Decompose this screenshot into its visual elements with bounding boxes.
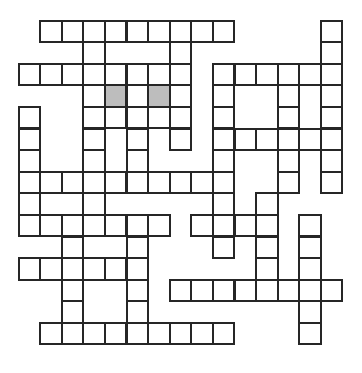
grid-cell[interactable] xyxy=(82,84,106,108)
grid-cell[interactable] xyxy=(190,279,214,303)
grid-cell[interactable] xyxy=(320,20,344,44)
grid-cell[interactable] xyxy=(126,300,150,324)
grid-cell[interactable] xyxy=(147,171,171,195)
grid-cell[interactable] xyxy=(82,214,106,238)
grid-cell[interactable] xyxy=(212,192,236,216)
grid-cell[interactable] xyxy=(18,257,42,281)
grid-cell[interactable] xyxy=(82,20,106,44)
grid-cell[interactable] xyxy=(18,63,42,87)
grid-cell[interactable] xyxy=(320,84,344,108)
grid-cell[interactable] xyxy=(147,20,171,44)
grid-cell[interactable] xyxy=(82,128,106,152)
grid-cell[interactable] xyxy=(126,106,150,130)
grid-cell[interactable] xyxy=(126,20,150,44)
grid-cell[interactable] xyxy=(255,257,279,281)
grid-cell[interactable] xyxy=(255,192,279,216)
shaded-cell[interactable] xyxy=(147,84,171,108)
grid-cell[interactable] xyxy=(82,149,106,173)
grid-cell[interactable] xyxy=(169,171,193,195)
grid-cell[interactable] xyxy=(169,84,193,108)
grid-cell[interactable] xyxy=(277,128,301,152)
grid-cell[interactable] xyxy=(169,41,193,65)
grid-cell[interactable] xyxy=(277,106,301,130)
grid-cell[interactable] xyxy=(126,322,150,346)
grid-cell[interactable] xyxy=(190,214,214,238)
grid-cell[interactable] xyxy=(61,300,85,324)
grid-cell[interactable] xyxy=(61,236,85,260)
grid-cell[interactable] xyxy=(61,257,85,281)
grid-cell[interactable] xyxy=(169,128,193,152)
grid-cell[interactable] xyxy=(126,214,150,238)
grid-cell[interactable] xyxy=(147,106,171,130)
grid-cell[interactable] xyxy=(169,106,193,130)
grid-cell[interactable] xyxy=(39,214,63,238)
grid-cell[interactable] xyxy=(39,171,63,195)
grid-cell[interactable] xyxy=(190,171,214,195)
grid-cell[interactable] xyxy=(18,128,42,152)
grid-cell[interactable] xyxy=(212,84,236,108)
grid-cell[interactable] xyxy=(320,128,344,152)
grid-cell[interactable] xyxy=(126,171,150,195)
grid-cell[interactable] xyxy=(82,106,106,130)
grid-cell[interactable] xyxy=(104,257,128,281)
grid-cell[interactable] xyxy=(126,236,150,260)
grid-cell[interactable] xyxy=(18,149,42,173)
grid-cell[interactable] xyxy=(61,20,85,44)
grid-cell[interactable] xyxy=(104,106,128,130)
grid-cell[interactable] xyxy=(126,128,150,152)
grid-cell[interactable] xyxy=(104,214,128,238)
grid-cell[interactable] xyxy=(169,63,193,87)
grid-cell[interactable] xyxy=(190,322,214,346)
grid-cell[interactable] xyxy=(169,20,193,44)
grid-cell[interactable] xyxy=(147,63,171,87)
grid-cell[interactable] xyxy=(212,20,236,44)
grid-cell[interactable] xyxy=(104,63,128,87)
grid-cell[interactable] xyxy=(234,128,258,152)
grid-cell[interactable] xyxy=(18,192,42,216)
grid-cell[interactable] xyxy=(61,171,85,195)
grid-cell[interactable] xyxy=(18,214,42,238)
grid-cell[interactable] xyxy=(298,300,322,324)
grid-cell[interactable] xyxy=(61,279,85,303)
grid-cell[interactable] xyxy=(298,128,322,152)
grid-cell[interactable] xyxy=(126,84,150,108)
grid-cell[interactable] xyxy=(104,20,128,44)
grid-cell[interactable] xyxy=(298,63,322,87)
grid-cell[interactable] xyxy=(277,149,301,173)
grid-cell[interactable] xyxy=(82,41,106,65)
grid-cell[interactable] xyxy=(212,128,236,152)
grid-cell[interactable] xyxy=(234,63,258,87)
grid-cell[interactable] xyxy=(18,171,42,195)
grid-cell[interactable] xyxy=(147,322,171,346)
grid-cell[interactable] xyxy=(39,20,63,44)
grid-cell[interactable] xyxy=(126,279,150,303)
grid-cell[interactable] xyxy=(212,149,236,173)
grid-cell[interactable] xyxy=(82,322,106,346)
grid-cell[interactable] xyxy=(320,171,344,195)
grid-cell[interactable] xyxy=(147,214,171,238)
grid-cell[interactable] xyxy=(104,322,128,346)
grid-cell[interactable] xyxy=(320,106,344,130)
grid-cell[interactable] xyxy=(277,84,301,108)
grid-cell[interactable] xyxy=(126,149,150,173)
grid-cell[interactable] xyxy=(255,128,279,152)
grid-cell[interactable] xyxy=(39,322,63,346)
grid-cell[interactable] xyxy=(277,279,301,303)
grid-cell[interactable] xyxy=(39,63,63,87)
grid-cell[interactable] xyxy=(82,171,106,195)
grid-cell[interactable] xyxy=(234,279,258,303)
grid-cell[interactable] xyxy=(61,214,85,238)
grid-cell[interactable] xyxy=(298,322,322,346)
grid-cell[interactable] xyxy=(234,214,258,238)
grid-cell[interactable] xyxy=(320,279,344,303)
grid-cell[interactable] xyxy=(212,214,236,238)
grid-cell[interactable] xyxy=(298,214,322,238)
grid-cell[interactable] xyxy=(320,63,344,87)
grid-cell[interactable] xyxy=(212,322,236,346)
grid-cell[interactable] xyxy=(212,279,236,303)
grid-cell[interactable] xyxy=(320,41,344,65)
grid-cell[interactable] xyxy=(82,257,106,281)
grid-cell[interactable] xyxy=(190,20,214,44)
grid-cell[interactable] xyxy=(298,236,322,260)
grid-cell[interactable] xyxy=(126,63,150,87)
